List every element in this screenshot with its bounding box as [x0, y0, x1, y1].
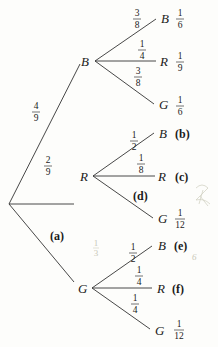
prob-root-r: 2 9 — [44, 155, 52, 177]
result-b-g: 1 6 — [176, 95, 184, 117]
svg-text:1: 1 — [178, 95, 183, 105]
label-c: (c) — [175, 170, 188, 184]
result-r-g: 1 12 — [175, 208, 185, 230]
leaf-b-b: B — [161, 11, 169, 26]
leaf-g-r: R — [156, 281, 165, 296]
svg-text:12: 12 — [174, 331, 184, 341]
handwritten-fraction: 1 3 — [93, 238, 99, 258]
label-e: (e) — [174, 239, 187, 253]
edge-g-g — [92, 288, 150, 329]
leaf-b-r: R — [159, 54, 168, 69]
svg-text:1: 1 — [133, 293, 138, 303]
edge-b-g — [95, 61, 154, 104]
svg-text:4: 4 — [34, 101, 39, 111]
label-d: (d) — [133, 189, 148, 203]
leaf-r-r: R — [157, 169, 166, 184]
edge-b-b — [95, 19, 156, 61]
edge-r-b — [93, 133, 154, 176]
svg-text:1: 1 — [140, 39, 145, 49]
svg-text:4: 4 — [133, 305, 138, 315]
leaf-r-g: G — [158, 211, 168, 226]
prob-b-g: 3 8 — [134, 66, 142, 88]
svg-text:9: 9 — [178, 63, 183, 73]
svg-text:9: 9 — [34, 113, 39, 123]
prob-r-b: 1 2 — [130, 130, 138, 152]
svg-text:12: 12 — [175, 220, 185, 230]
prob-g-g: 1 4 — [131, 293, 139, 315]
svg-text:8: 8 — [139, 165, 144, 175]
svg-text:2: 2 — [46, 155, 51, 165]
prob-b-b: 3 8 — [133, 8, 141, 30]
handwritten-mark: 6 — [192, 252, 197, 262]
svg-text:3: 3 — [136, 66, 141, 76]
svg-text:1: 1 — [131, 242, 136, 252]
prob-root-b: 4 9 — [32, 101, 40, 123]
svg-text:1: 1 — [177, 319, 182, 329]
label-b: (b) — [175, 127, 190, 141]
node-g: G — [78, 281, 88, 296]
svg-text:9: 9 — [46, 167, 51, 177]
edge-root-g — [9, 204, 74, 282]
svg-text:2: 2 — [131, 254, 136, 264]
svg-text:4: 4 — [140, 51, 145, 61]
node-r: R — [79, 169, 88, 184]
leaf-r-b: B — [159, 126, 167, 141]
svg-text:8: 8 — [136, 78, 141, 88]
prob-r-r: 1 8 — [137, 153, 145, 175]
label-f: (f) — [172, 282, 184, 296]
leaf-g-g: G — [155, 323, 165, 338]
node-b: B — [81, 54, 89, 69]
result-g-g: 1 12 — [174, 319, 184, 341]
result-b-b: 1 6 — [176, 8, 184, 30]
svg-text:1: 1 — [94, 238, 99, 248]
result-b-r: 1 9 — [176, 51, 184, 73]
svg-text:3: 3 — [94, 248, 99, 258]
svg-text:6: 6 — [178, 20, 183, 30]
prob-g-b: 1 2 — [129, 242, 137, 264]
svg-text:4: 4 — [137, 277, 142, 287]
svg-text:2: 2 — [132, 142, 137, 152]
svg-text:8: 8 — [135, 20, 140, 30]
svg-text:1: 1 — [139, 153, 144, 163]
label-a: (a) — [50, 229, 64, 243]
svg-text:1: 1 — [137, 265, 142, 275]
svg-text:1: 1 — [132, 130, 137, 140]
edge-g-b — [92, 246, 152, 288]
edge-root-b — [9, 64, 80, 204]
probability-tree: B R G 4 9 2 9 (a) 3 8 1 4 3 8 B R G 1 6 … — [0, 0, 218, 347]
prob-b-r: 1 4 — [138, 39, 146, 61]
svg-text:1: 1 — [178, 8, 183, 18]
handwritten-scribble — [196, 185, 210, 206]
prob-g-r: 1 4 — [135, 265, 143, 287]
svg-text:3: 3 — [135, 8, 140, 18]
leaf-g-b: B — [158, 238, 166, 253]
svg-text:6: 6 — [178, 107, 183, 117]
svg-text:1: 1 — [178, 208, 183, 218]
leaf-b-g: G — [159, 97, 169, 112]
svg-text:1: 1 — [178, 51, 183, 61]
